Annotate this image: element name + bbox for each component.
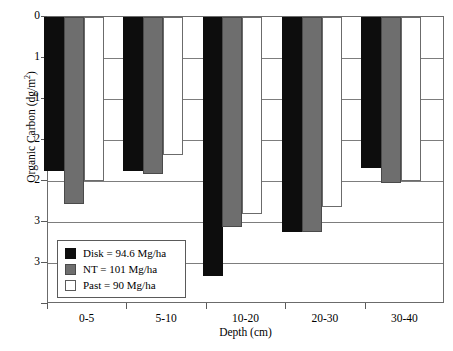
bar-nt-30-40	[381, 17, 401, 183]
bar-past-20-30	[322, 17, 342, 207]
y-axis-tick-label: 3	[26, 256, 40, 267]
legend-item: Disk = 94.6 Mg/ha	[65, 245, 179, 261]
legend-swatch-disk	[65, 248, 76, 259]
y-axis-tick-label: 0	[26, 10, 40, 21]
x-axis-tick-label: 20-30	[290, 312, 360, 324]
x-axis-title: Depth (cm)	[47, 326, 444, 338]
x-axis-tick-label: 30-40	[369, 312, 439, 324]
legend: Disk = 94.6 Mg/haNT = 101 Mg/haPast = 90…	[57, 240, 186, 298]
y-axis-tick-label: 2	[26, 133, 40, 144]
y-axis-tick-label: 1	[26, 51, 40, 62]
legend-swatch-past	[65, 280, 76, 291]
bar-disk-20-30	[282, 17, 302, 232]
y-axis-tick-label: 1	[26, 92, 40, 103]
bar-disk-0-5	[44, 17, 64, 171]
x-axis-tick-mark	[126, 303, 127, 309]
legend-item: NT = 101 Mg/ha	[65, 261, 179, 277]
legend-label: Disk = 94.6 Mg/ha	[83, 247, 166, 259]
x-axis-tick-label: 5-10	[131, 312, 201, 324]
bar-group	[366, 17, 445, 302]
legend-label: NT = 101 Mg/ha	[83, 263, 157, 275]
legend-swatch-nt	[65, 264, 76, 275]
bar-nt-5-10	[143, 17, 163, 174]
legend-item: Past = 90 Mg/ha	[65, 277, 179, 293]
y-axis-tick-label: 3	[26, 215, 40, 226]
y-axis-title-tail: )	[25, 71, 37, 75]
bar-past-10-20	[242, 17, 262, 214]
y-axis-title-exponent: 2	[23, 75, 32, 79]
x-axis-tick-mark	[285, 303, 286, 309]
bar-nt-0-5	[64, 17, 84, 204]
bar-past-5-10	[163, 17, 183, 155]
bar-group	[207, 17, 286, 302]
x-axis-tick-mark	[365, 303, 366, 309]
y-axis-tick-label: 2	[26, 174, 40, 185]
bar-nt-10-20	[222, 17, 242, 227]
x-axis-tick-mark	[47, 303, 48, 309]
bar-chart-figure: Organic Carbon (dg/m2) 0112233 Disk = 94…	[0, 0, 453, 351]
bar-past-0-5	[84, 17, 104, 181]
bar-past-30-40	[401, 17, 421, 181]
x-axis-tick-label: 10-20	[211, 312, 281, 324]
bar-group	[286, 17, 365, 302]
bar-disk-30-40	[361, 17, 381, 168]
bar-nt-20-30	[302, 17, 322, 232]
x-axis-tick-label: 0-5	[52, 312, 122, 324]
x-axis-tick-mark	[206, 303, 207, 309]
bar-disk-5-10	[123, 17, 143, 171]
bar-disk-10-20	[203, 17, 223, 276]
legend-label: Past = 90 Mg/ha	[83, 279, 156, 291]
